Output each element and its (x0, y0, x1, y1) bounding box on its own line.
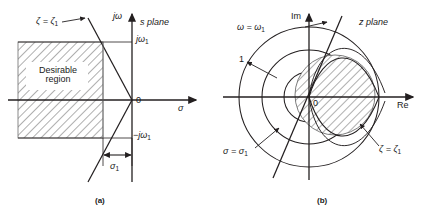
z-plane-damping-label: ζ = ζ1 (379, 145, 401, 155)
s-plane-panel: s plane jω σ 0 jω1 −jω1 ζ = ζ1 σ1 Desira… (0, 0, 216, 218)
desirable-region-hatch (295, 55, 375, 135)
constant-frequency-label: ω = ω1 (237, 23, 265, 33)
z-plane-origin-label: 0 (313, 99, 318, 108)
s-plane-origin-label: 0 (136, 96, 141, 105)
jomega1-tick-label: jω1 (136, 35, 149, 45)
constant-sigma-label: σ = σ1 (223, 147, 248, 157)
s-plane-figure (0, 0, 216, 190)
sigma-axis-label: σ (178, 104, 183, 113)
frequency-label-leader (305, 22, 327, 27)
imaginary-axis-label: Im (291, 12, 301, 21)
z-plane-title: z plane (359, 18, 388, 27)
sigma-label-leader (255, 128, 279, 148)
jomega-axis-label: jω (113, 12, 122, 21)
sigma1-dimension-label: σ1 (110, 162, 119, 172)
s-plane-damping-label: ζ = ζ1 (36, 17, 58, 27)
panel-a-caption: (a) (95, 196, 105, 205)
unit-radius-label: 1 (239, 55, 244, 64)
panel-b-caption: (b) (317, 196, 327, 205)
real-axis-label: Re (397, 101, 409, 110)
desirable-region-label: Desirable region (32, 66, 84, 84)
damping-label-leader (360, 124, 379, 146)
z-plane-panel: z plane Im Re 0 1 ω = ω1 σ = σ1 ζ = ζ1 (… (217, 0, 433, 218)
unit-radius-leader (247, 62, 277, 78)
s-plane-title: s plane (140, 18, 169, 27)
damping-label-leader (62, 18, 85, 22)
negative-jomega1-tick-label: −jω1 (133, 131, 151, 141)
